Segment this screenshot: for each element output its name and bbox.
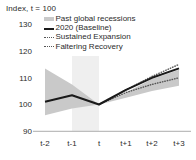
legend-item-sustained-expansion: Sustained Expansion xyxy=(44,33,136,42)
legend-label: Faltering Recovery xyxy=(56,43,123,52)
legend-label: Sustained Expansion xyxy=(56,33,131,42)
dotted-line-icon xyxy=(44,43,54,51)
legend-item-faltering-recovery: Faltering Recovery xyxy=(44,43,136,52)
solid-line-icon xyxy=(44,24,54,32)
band-swatch-icon xyxy=(44,15,54,23)
chart-legend: Past global recessions 2020 (Baseline) S… xyxy=(44,15,136,52)
dotted-line-icon xyxy=(44,34,54,42)
recovery-scenarios-chart: Index, t = 100 130 120 110 100 90 Past g… xyxy=(0,0,196,160)
